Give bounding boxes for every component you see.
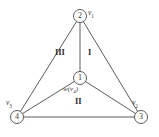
vertex-label-v1: v1 [88, 9, 94, 19]
center-vertex-label: w(v4) [63, 86, 78, 94]
node-group: 2 1 4 3 [11, 10, 148, 124]
region-label-two: II [75, 97, 82, 106]
diagram-canvas: 2 1 4 3 v1 v3 v2 w(v4) I II III [0, 0, 159, 137]
vertex-label-v1-sub: 1 [91, 13, 94, 19]
node-top-number: 2 [78, 11, 82, 20]
vertex-label-v2-sub: 2 [135, 103, 138, 109]
center-vertex-label-paren-close: ) [76, 85, 78, 93]
node-center: 1 [74, 72, 87, 85]
region-label-one: I [88, 48, 91, 57]
node-left-number: 4 [15, 112, 19, 121]
edge-top-left [17, 16, 80, 117]
edge-center-left [17, 78, 80, 117]
node-right: 3 [135, 111, 148, 124]
vertex-label-v2: v2 [132, 99, 138, 109]
vertex-label-v3: v3 [6, 99, 12, 109]
node-right-number: 3 [139, 112, 143, 121]
region-label-three: III [55, 48, 65, 57]
node-center-number: 1 [78, 73, 82, 82]
node-top: 2 [74, 10, 87, 23]
node-left: 4 [11, 111, 24, 124]
graph-svg: 2 1 4 3 [0, 0, 159, 137]
vertex-label-v3-sub: 3 [9, 103, 12, 109]
